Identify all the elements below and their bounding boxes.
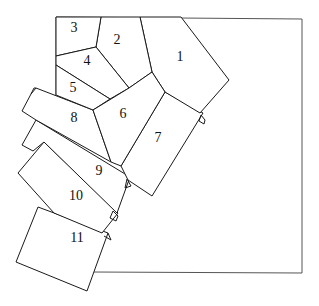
label-8: 8 [71, 110, 78, 125]
folded-regions-diagram: 1 2 3 4 5 6 7 8 9 10 11 [0, 0, 319, 306]
label-9: 9 [96, 163, 103, 178]
label-6: 6 [120, 106, 127, 121]
label-2: 2 [114, 32, 121, 47]
label-3: 3 [71, 20, 78, 35]
label-5: 5 [70, 80, 77, 95]
label-1: 1 [177, 49, 184, 64]
label-10: 10 [69, 188, 83, 203]
label-4: 4 [84, 53, 91, 68]
label-11: 11 [70, 230, 83, 245]
label-7: 7 [155, 130, 162, 145]
